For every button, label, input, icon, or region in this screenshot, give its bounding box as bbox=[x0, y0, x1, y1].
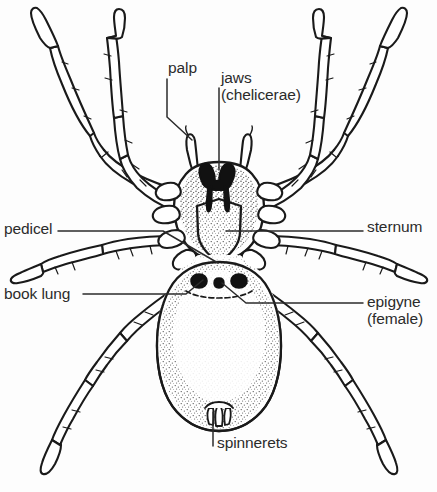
label-pedicel: pedicel bbox=[4, 221, 52, 237]
label-epigyne-female: (female) bbox=[367, 311, 423, 327]
leader-palp bbox=[167, 79, 192, 140]
leg-right-1 bbox=[254, 8, 407, 200]
spider-illustration bbox=[0, 0, 437, 492]
leg-right-3 bbox=[266, 236, 427, 283]
label-jaws-chelicerae: (chelicerae) bbox=[221, 87, 301, 103]
leg-left-3 bbox=[11, 236, 172, 283]
label-palp: palp bbox=[168, 60, 197, 76]
leg-left-2 bbox=[104, 9, 177, 210]
leg-right-2 bbox=[261, 9, 334, 210]
spider-anatomy-diagram: palp jaws (chelicerae) pedicel sternum b… bbox=[0, 0, 437, 492]
leg-left-1 bbox=[31, 8, 184, 200]
label-book-lung: book lung bbox=[4, 286, 70, 302]
label-jaws: jaws bbox=[221, 70, 252, 86]
label-epigyne: epigyne bbox=[367, 294, 421, 310]
label-spinnerets: spinnerets bbox=[217, 435, 288, 451]
spinnerets-structure bbox=[205, 402, 233, 426]
label-sternum: sternum bbox=[367, 219, 422, 235]
